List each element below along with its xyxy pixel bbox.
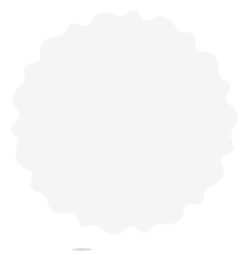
particle-surface-render [0, 0, 248, 255]
figure-root [0, 0, 248, 255]
